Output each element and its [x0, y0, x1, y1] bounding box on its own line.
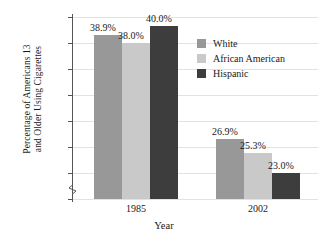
- legend-item-white: White: [197, 36, 285, 51]
- gridline: [72, 199, 318, 200]
- y-tick-mark: [68, 121, 73, 122]
- legend-label-african-american: African American: [213, 54, 285, 64]
- legend-label-white: White: [213, 39, 237, 49]
- bar-1985-white: [94, 35, 122, 199]
- bar-1985-african-american: [122, 43, 150, 199]
- bar-value-label: 23.0%: [268, 161, 294, 171]
- y-axis-title-line-1: Percentage of Americans 13: [22, 4, 33, 194]
- bar-value-label: 40.0%: [146, 14, 172, 24]
- y-tick-mark: [68, 69, 73, 70]
- x-axis-label-1985: 1985: [106, 203, 166, 214]
- legend-swatch-african-american: [197, 54, 206, 63]
- legend: White African American Hispanic: [197, 36, 285, 81]
- bar-value-label: 38.9%: [90, 23, 116, 33]
- y-axis-title-line-2: and Older Using Cigarettes: [33, 4, 44, 194]
- bar-value-label: 26.9%: [212, 127, 238, 137]
- legend-label-hispanic: Hispanic: [213, 69, 249, 79]
- legend-swatch-hispanic: [197, 69, 206, 78]
- y-tick-mark: [68, 17, 73, 18]
- bar-value-label: 25.3%: [240, 141, 266, 151]
- bar-2002-hispanic: [272, 173, 300, 199]
- y-tick-mark: [68, 147, 73, 148]
- gridline: [72, 17, 318, 18]
- legend-swatch-white: [197, 39, 206, 48]
- legend-item-african-american: African American: [197, 51, 285, 66]
- y-axis-title: Percentage of Americans 13 and Older Usi…: [22, 4, 44, 194]
- y-tick-mark: [68, 43, 73, 44]
- y-tick-mark: [68, 199, 73, 200]
- x-axis-title: Year: [0, 220, 328, 231]
- legend-item-hispanic: Hispanic: [197, 66, 285, 81]
- bar-chart: Percentage of Americans 13 and Older Usi…: [0, 0, 328, 241]
- y-tick-mark: [68, 95, 73, 96]
- x-axis-label-2002: 2002: [228, 203, 288, 214]
- bar-value-label: 38.0%: [118, 31, 144, 41]
- y-tick-mark: [68, 173, 73, 174]
- bar-1985-hispanic: [150, 26, 178, 199]
